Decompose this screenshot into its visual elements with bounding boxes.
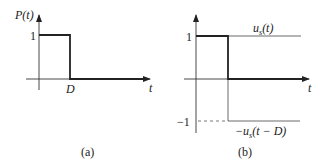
panel-b-y-tick-neg-1: −1 xyxy=(177,115,190,129)
panel-b-x-label: t xyxy=(308,81,312,95)
panel-a-x-tick-d: D xyxy=(65,82,75,96)
panel-a-y-tick-1: 1 xyxy=(30,29,36,43)
panel-b-us-t-label: us(t) xyxy=(253,21,273,37)
panel-a-caption: (a) xyxy=(81,145,94,159)
panel-a-y-label: P(t) xyxy=(14,8,34,22)
diagram-canvas: P(t) 1 D t (a) 1 −1 t us(t) −us(t − D) (… xyxy=(0,0,328,167)
panel-b-neg-us-t-d-label: −us(t − D) xyxy=(235,124,286,140)
panel-b-pulse-curve xyxy=(196,36,306,79)
panel-b: 1 −1 t us(t) −us(t − D) (b) xyxy=(177,15,312,159)
panel-a-pulse-curve xyxy=(39,35,148,79)
panel-b-caption: (b) xyxy=(238,145,252,159)
panel-b-y-tick-1: 1 xyxy=(186,30,192,44)
panel-a-x-label: t xyxy=(149,81,153,95)
panel-a: P(t) 1 D t (a) xyxy=(14,8,153,159)
